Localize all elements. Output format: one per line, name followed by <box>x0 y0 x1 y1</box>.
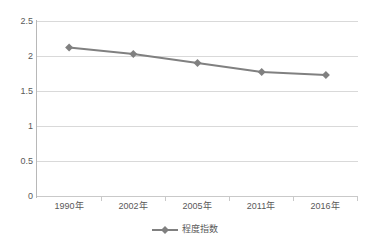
legend-label: 程度指数 <box>182 224 218 235</box>
data-point-marker <box>322 71 330 79</box>
data-point-marker <box>258 68 266 76</box>
chart-legend: 程度指数 <box>0 224 369 235</box>
data-point-marker <box>65 44 73 52</box>
series-layer <box>0 0 369 249</box>
data-point-marker <box>129 50 137 58</box>
line-chart: 2.5 2 1.5 1 0.5 0 1990年 2002年 2005年 2011… <box>0 0 369 249</box>
data-point-marker <box>194 59 202 67</box>
line-diamond-marker-icon <box>152 225 178 235</box>
